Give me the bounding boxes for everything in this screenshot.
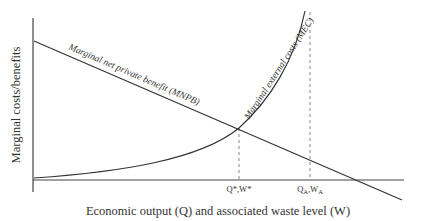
y-axis-label: Marginal costs/benefits <box>9 46 23 163</box>
mec-label: Marginal external costs (MEC) <box>242 16 317 123</box>
mnpb-label: Marginal net private benefit (MNPB) <box>66 41 201 108</box>
x-axis-label: Economic output (Q) and associated waste… <box>86 204 350 218</box>
optimal-output-label: Q*,W* <box>227 184 252 194</box>
mnpb-line <box>34 41 402 200</box>
externality-diagram: Marginal net private benefit (MNPB) Marg… <box>0 0 428 221</box>
private-output-label: QA,WA <box>297 184 323 195</box>
